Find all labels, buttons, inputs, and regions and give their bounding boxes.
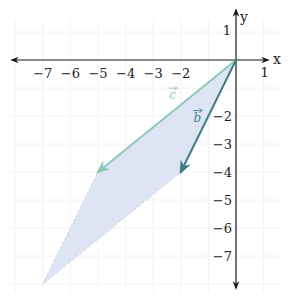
- x-tick-label: −2: [171, 66, 190, 81]
- x-axis-label: x: [273, 51, 281, 67]
- x-tick-label: −3: [144, 66, 163, 81]
- x-tick-label: −5: [88, 66, 107, 81]
- coordinate-plane: x y −7−6−5−4−3−211−2−3−4−5−6−7 cb: [0, 0, 288, 297]
- y-tick-label: −7: [213, 249, 232, 264]
- y-tick-label: 1: [223, 23, 231, 38]
- x-tick-label: −7: [33, 66, 52, 81]
- y-tick-label: −5: [213, 193, 232, 208]
- y-tick-label: −4: [213, 165, 232, 180]
- vector-b-label: b: [194, 111, 202, 125]
- y-tick-label: −2: [213, 109, 232, 124]
- x-tick-label: 1: [260, 65, 268, 80]
- y-axis-label: y: [239, 9, 248, 25]
- x-tick-label: −4: [116, 66, 135, 81]
- y-tick-label: −3: [213, 137, 232, 152]
- vector-parallelogram-diagram: x y −7−6−5−4−3−211−2−3−4−5−6−7 cb: [0, 0, 288, 297]
- x-tick-label: −6: [61, 66, 80, 81]
- y-tick-label: −6: [213, 221, 232, 236]
